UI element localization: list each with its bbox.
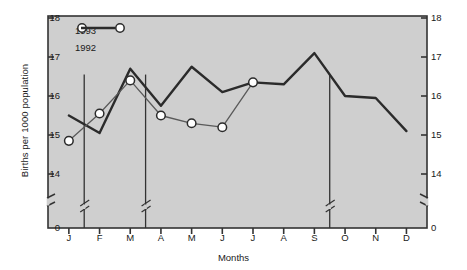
x-axis-tick-label: J bbox=[240, 232, 266, 243]
y-axis-tick-label: 16 bbox=[36, 91, 60, 101]
x-axis-tick-label: J bbox=[56, 232, 82, 243]
x-axis-title: Months bbox=[0, 252, 467, 263]
x-axis-tick-label: O bbox=[332, 232, 358, 243]
x-axis-tick-label: D bbox=[393, 232, 419, 243]
y-axis-tick-label: 18 bbox=[36, 13, 60, 23]
x-axis-tick-label: N bbox=[363, 232, 389, 243]
x-axis-tick-label: A bbox=[271, 232, 297, 243]
x-axis-tick-label: J bbox=[209, 232, 235, 243]
y-axis-tick-label: 14 bbox=[36, 169, 60, 179]
chart-legend: 1993 1992 bbox=[75, 22, 123, 56]
y-axis-title: Births per 1000 population bbox=[19, 31, 30, 211]
y-axis-tick-label: 16 bbox=[431, 91, 455, 101]
y-axis-tick-label: 0 bbox=[431, 223, 455, 233]
y-axis-tick-label: 18 bbox=[431, 13, 455, 23]
y-axis-tick-label: 15 bbox=[431, 130, 455, 140]
x-axis-tick-label: S bbox=[301, 232, 327, 243]
legend-label-1992: 1992 bbox=[75, 42, 111, 53]
legend-item-1992: 1992 bbox=[75, 39, 123, 56]
y-axis-tick-label: 14 bbox=[431, 169, 455, 179]
chart-container: 1993 1992 Births per 1000 population Mon… bbox=[0, 0, 467, 270]
y-axis-tick-label: 17 bbox=[36, 52, 60, 62]
chart-svg bbox=[0, 0, 467, 270]
y-axis-tick-label: 17 bbox=[431, 52, 455, 62]
x-axis-tick-label: M bbox=[179, 232, 205, 243]
x-axis-tick-label: F bbox=[87, 232, 113, 243]
y-axis-tick-label: 15 bbox=[36, 130, 60, 140]
x-axis-tick-label: A bbox=[148, 232, 174, 243]
x-axis-tick-label: M bbox=[117, 232, 143, 243]
